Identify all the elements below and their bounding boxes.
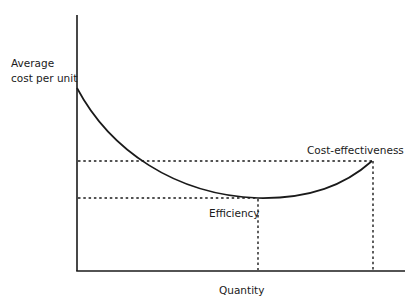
y-axis-label-line-2: cost per unit <box>11 71 77 85</box>
y-axis-label: Average cost per unit <box>11 56 77 85</box>
efficiency-label: Efficiency <box>209 206 260 220</box>
cost-effectiveness-label: Cost-effectiveness <box>307 143 404 157</box>
y-axis-label-line-1: Average <box>11 56 77 70</box>
x-axis-label: Quantity <box>219 283 264 297</box>
